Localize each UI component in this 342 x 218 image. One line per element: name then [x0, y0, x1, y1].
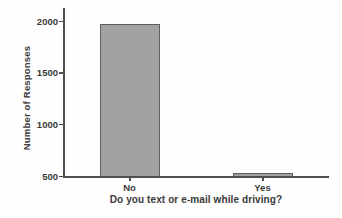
y-tick-label: 500: [18, 171, 58, 182]
x-category-label: Yes: [233, 182, 293, 193]
y-tick-mark: [59, 72, 63, 74]
y-tick-mark: [59, 21, 63, 23]
y-tick-label: 1000: [18, 119, 58, 130]
x-tick-mark: [262, 177, 264, 181]
y-axis-title: Number of Responses: [21, 46, 32, 151]
x-category-label: No: [100, 182, 160, 193]
bar-yes: [233, 173, 293, 176]
x-axis-line: [63, 176, 329, 178]
bar-no: [100, 24, 160, 176]
y-tick-mark: [59, 176, 63, 178]
y-axis-line: [63, 8, 65, 176]
bar-chart: Number of Responses 500100015002000NoYes…: [0, 0, 342, 218]
y-tick-label: 2000: [18, 16, 58, 27]
y-tick-label: 1500: [18, 67, 58, 78]
y-tick-mark: [59, 124, 63, 126]
x-tick-mark: [129, 177, 131, 181]
x-axis-title: Do you text or e-mail while driving?: [63, 194, 329, 205]
